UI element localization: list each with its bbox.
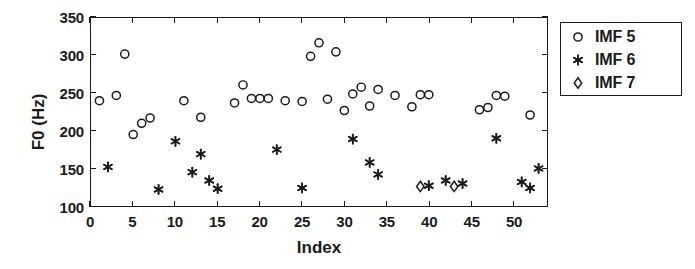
x-tick-label: 50 — [506, 213, 522, 230]
x-tick-label: 25 — [294, 213, 310, 230]
data-markers-layer — [91, 18, 547, 206]
x-tick-mark — [513, 201, 514, 207]
legend-label-2: IMF 7 — [595, 74, 635, 92]
x-tick-mark — [217, 201, 218, 207]
circle-marker-icon — [561, 28, 595, 46]
y-tick-mark — [90, 16, 96, 17]
x-tick-mark-top — [471, 17, 472, 23]
legend-entry-2: IMF 7 — [561, 71, 681, 95]
x-tick-mark — [259, 201, 260, 207]
x-tick-mark-top — [132, 17, 133, 23]
y-tick-mark — [90, 206, 96, 207]
x-tick-mark — [132, 201, 133, 207]
x-tick-label: 10 — [167, 213, 183, 230]
x-tick-mark — [429, 201, 430, 207]
legend-label-0: IMF 5 — [595, 28, 635, 46]
x-tick-mark-top — [386, 17, 387, 23]
y-tick-mark-right — [542, 16, 548, 17]
y-tick-mark-right — [542, 168, 548, 169]
y-tick-mark — [90, 168, 96, 169]
x-tick-mark — [344, 201, 345, 207]
x-tick-mark-top — [344, 17, 345, 23]
x-tick-mark-top — [259, 17, 260, 23]
x-tick-label: 5 — [128, 213, 136, 230]
x-tick-mark-top — [174, 17, 175, 23]
legend-label-1: IMF 6 — [595, 51, 635, 69]
x-tick-label: 15 — [209, 213, 225, 230]
x-tick-mark — [386, 201, 387, 207]
x-axis-label: Index — [90, 238, 548, 258]
x-tick-label: 45 — [464, 213, 480, 230]
y-tick-mark — [90, 130, 96, 131]
y-tick-mark-right — [542, 130, 548, 131]
y-tick-label: 250 — [44, 85, 84, 102]
y-tick-mark-right — [542, 206, 548, 207]
asterisk-marker-icon — [561, 51, 595, 69]
legend-entry-0: IMF 5 — [561, 25, 681, 49]
y-tick-mark — [90, 92, 96, 93]
legend-box: IMF 5 IMF 6 IMF 7 — [560, 22, 682, 96]
y-tick-mark-right — [542, 92, 548, 93]
x-tick-label: 0 — [86, 213, 94, 230]
x-tick-mark-top — [301, 17, 302, 23]
y-tick-label: 350 — [44, 9, 84, 26]
y-tick-label: 100 — [44, 199, 84, 216]
y-tick-label: 300 — [44, 47, 84, 64]
x-tick-mark-top — [429, 17, 430, 23]
y-tick-mark-right — [542, 54, 548, 55]
x-tick-label: 35 — [379, 213, 395, 230]
x-tick-mark — [301, 201, 302, 207]
x-tick-mark — [471, 201, 472, 207]
x-tick-mark-top — [513, 17, 514, 23]
x-tick-label: 30 — [336, 213, 352, 230]
x-tick-label: 20 — [251, 213, 267, 230]
x-tick-mark — [174, 201, 175, 207]
x-tick-mark-top — [89, 17, 90, 23]
y-tick-mark — [90, 54, 96, 55]
x-tick-label: 40 — [421, 213, 437, 230]
y-tick-label: 200 — [44, 123, 84, 140]
legend-entry-1: IMF 6 — [561, 48, 681, 72]
x-tick-mark-top — [217, 17, 218, 23]
figure-container: F0 (Hz) 05101520253035404550 10015020025… — [0, 0, 695, 269]
plot-area — [90, 17, 548, 207]
diamond-marker-icon — [561, 74, 595, 92]
y-tick-label: 150 — [44, 161, 84, 178]
